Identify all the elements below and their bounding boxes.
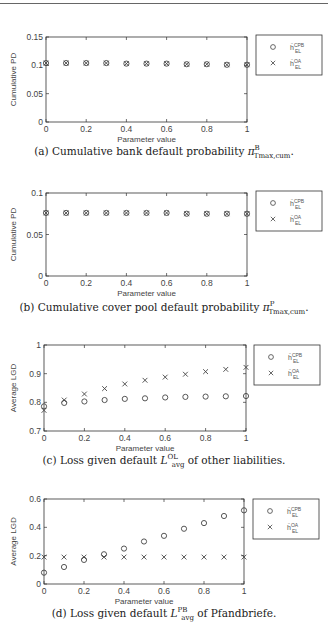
data-point-circle	[102, 397, 107, 402]
chart-d: 00.20.40.60.8100.20.40.6Parameter valueA…	[9, 494, 319, 606]
legend: ĥCPBELĥOAEL	[253, 499, 319, 539]
y-axis-label: Cumulative PD	[9, 53, 18, 107]
data-point-cross	[164, 211, 169, 216]
legend: ĥCPBELĥOAEL	[256, 35, 322, 75]
x-tick-label: 0.4	[120, 278, 132, 288]
x-axis-label: Parameter value	[115, 597, 174, 606]
data-point-circle	[183, 394, 188, 399]
legend: ĥCPBELĥOAEL	[254, 345, 320, 385]
y-axis-label: Average LGD	[9, 364, 18, 413]
x-tick-label: 0.8	[201, 278, 213, 288]
data-point-cross	[204, 211, 209, 216]
data-point-cross	[203, 369, 208, 374]
data-point-cross	[102, 555, 107, 560]
legend: ĥCPBELĥOAEL	[256, 191, 322, 231]
data-point-cross	[222, 555, 227, 560]
y-axis-label: Average LGD	[9, 517, 18, 566]
x-tick-label: 0	[42, 433, 47, 443]
y-tick-label: 0	[36, 579, 41, 589]
x-tick-label: 0.2	[80, 278, 92, 288]
data-point-cross	[223, 367, 228, 372]
y-tick-label: 0.05	[26, 230, 43, 240]
data-point-cross	[64, 211, 69, 216]
data-point-cross	[82, 555, 87, 560]
y-axis-label: Cumulative PD	[9, 208, 18, 262]
data-point-circle	[142, 396, 147, 401]
data-point-cross	[183, 372, 188, 377]
data-point-circle	[181, 526, 186, 531]
data-point-cross	[164, 61, 169, 66]
data-point-cross	[144, 211, 149, 216]
x-axis-label: Parameter value	[116, 444, 175, 453]
data-point-cross	[102, 386, 107, 391]
data-point-cross	[84, 61, 89, 66]
data-point-circle	[141, 539, 146, 544]
y-tick-label: 0.7	[29, 426, 41, 436]
x-tick-label: 0.4	[120, 124, 132, 134]
data-point-circle	[81, 557, 86, 562]
data-point-cross	[184, 62, 189, 67]
y-tick-label: 0.1	[31, 188, 43, 198]
x-tick-label: 0.6	[161, 124, 173, 134]
data-point-cross	[202, 555, 207, 560]
x-tick-label: 0.2	[78, 586, 90, 596]
data-point-cross	[143, 378, 148, 383]
data-point-circle	[163, 395, 168, 400]
data-point-cross	[204, 62, 209, 67]
y-tick-label: 0.2	[29, 551, 41, 561]
figure-caption-c: (c) Loss given default LOLavg of other l…	[0, 453, 328, 469]
data-point-cross	[162, 555, 167, 560]
y-tick-label: 0.9	[29, 369, 41, 379]
plot-area	[46, 193, 247, 276]
x-tick-label: 0.8	[200, 433, 212, 443]
x-tick-label: 0.8	[201, 124, 213, 134]
plot-area	[44, 499, 244, 584]
chart-a: 00.20.40.60.8100.050.10.15Parameter valu…	[9, 32, 322, 144]
data-point-circle	[121, 546, 126, 551]
data-point-cross	[84, 211, 89, 216]
figure-caption-d: (d) Loss given default LPBavg of Pfandbr…	[0, 606, 328, 622]
x-tick-label: 0	[44, 278, 49, 288]
x-tick-label: 0.4	[118, 586, 130, 596]
plot-area	[46, 37, 247, 122]
data-point-cross	[62, 398, 67, 403]
y-tick-label: 0.4	[29, 522, 41, 532]
data-point-cross	[124, 61, 129, 66]
chart-c: 00.20.40.60.810.70.80.91Parameter valueA…	[9, 340, 320, 453]
x-tick-label: 1	[244, 433, 249, 443]
data-point-circle	[161, 533, 166, 538]
x-tick-label: 0.2	[78, 433, 90, 443]
x-axis-label: Parameter value	[117, 135, 176, 144]
y-tick-label: 0.1	[31, 60, 43, 70]
data-point-cross	[142, 555, 147, 560]
data-point-circle	[62, 400, 67, 405]
data-point-cross	[225, 211, 230, 216]
x-tick-label: 0.8	[198, 586, 210, 596]
data-point-cross	[64, 61, 69, 66]
x-tick-label: 0	[44, 124, 49, 134]
data-point-cross	[144, 61, 149, 66]
data-point-cross	[104, 211, 109, 216]
data-point-cross	[124, 211, 129, 216]
data-point-cross	[122, 382, 127, 387]
data-point-cross	[163, 375, 168, 380]
y-tick-label: 1	[36, 340, 41, 350]
data-point-circle	[122, 396, 127, 401]
data-point-cross	[182, 555, 187, 560]
data-point-cross	[62, 555, 67, 560]
data-point-circle	[201, 520, 206, 525]
y-tick-label: 0	[38, 117, 43, 127]
y-tick-label: 0.05	[26, 89, 43, 99]
x-tick-label: 0.6	[159, 433, 171, 443]
chart-b: 00.20.40.60.8100.050.1Parameter valueCum…	[9, 188, 322, 298]
data-point-cross	[82, 392, 87, 397]
data-point-cross	[104, 61, 109, 66]
y-tick-label: 0.8	[29, 397, 41, 407]
x-tick-label: 0.6	[161, 278, 173, 288]
plot-area	[44, 345, 246, 431]
data-point-cross	[184, 211, 189, 216]
data-point-circle	[101, 552, 106, 557]
figure-caption-a: (a) Cumulative bank default probability …	[0, 144, 328, 160]
x-tick-label: 1	[242, 586, 247, 596]
x-tick-label: 1	[245, 124, 250, 134]
